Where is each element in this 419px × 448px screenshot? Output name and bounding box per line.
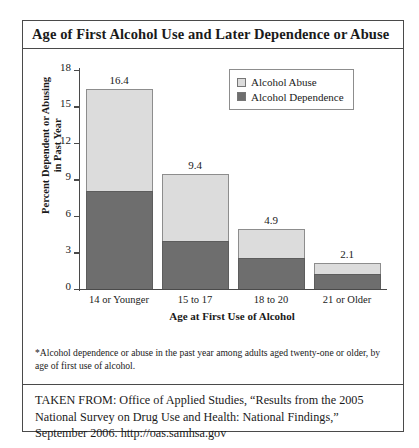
bar-total-label: 16.4 (86, 74, 153, 86)
y-axis-tick-label: 12 (60, 135, 71, 146)
bar-total-label: 9.4 (162, 159, 229, 171)
y-axis-tick: 0 (79, 289, 84, 290)
bar-segment-alcohol-abuse[interactable] (238, 229, 305, 258)
figure-footnote: *Alcohol dependence or abuse in the past… (35, 347, 391, 373)
x-axis-category-label: 21 or Older (300, 294, 395, 305)
x-axis-title: Age at First Use of Alcohol (79, 310, 385, 322)
bar-group[interactable]: 16.414 or Younger (86, 89, 153, 289)
legend-item-alcohol-abuse: Alcohol Abuse (237, 75, 344, 90)
legend-label-alcohol-dependence: Alcohol Dependence (251, 90, 344, 105)
bar-total-label: 4.9 (238, 214, 305, 226)
bar-segment-alcohol-dependence[interactable] (86, 191, 153, 288)
y-axis-tick-label: 0 (66, 281, 72, 292)
figure-title: Age of First Alcohol Use and Later Depen… (23, 21, 403, 48)
y-axis-tick-label: 9 (66, 171, 72, 182)
y-axis-tick-label: 3 (66, 244, 72, 255)
bar-segment-alcohol-abuse[interactable] (86, 89, 153, 191)
source-line-1: TAKEN FROM: Office of Applied Studies, “… (35, 392, 391, 409)
source-line-3: September 2006. http://oas.samhsa.gov (35, 425, 391, 442)
y-axis-tick-mark (74, 143, 79, 144)
y-axis-tick-mark (74, 179, 79, 180)
y-axis-tick-mark (74, 216, 79, 217)
bar-segment-alcohol-dependence[interactable] (238, 258, 305, 288)
figure-source: TAKEN FROM: Office of Applied Studies, “… (35, 392, 391, 442)
bar-group[interactable]: 2.121 or Older (314, 263, 381, 289)
legend-swatch-icon-alcohol-abuse (237, 78, 246, 87)
bar-segment-alcohol-abuse[interactable] (162, 174, 229, 241)
y-axis-tick-mark (74, 252, 79, 253)
bar-segment-alcohol-dependence[interactable] (314, 274, 381, 289)
legend-swatch-icon-alcohol-dependence (237, 92, 246, 101)
chart-area: Percent Dependent or Abusing in Past Yea… (23, 49, 403, 333)
bar-group[interactable]: 4.918 to 20 (238, 229, 305, 289)
legend-label-alcohol-abuse: Alcohol Abuse (251, 75, 317, 90)
bar-group[interactable]: 9.415 to 17 (162, 174, 229, 288)
bar-total-label: 2.1 (314, 248, 381, 260)
bar-segment-alcohol-abuse[interactable] (314, 263, 381, 274)
y-axis-title-line-1: Percent Dependent or Abusing (40, 61, 52, 231)
bar-segment-alcohol-dependence[interactable] (162, 241, 229, 288)
y-axis-tick-mark (74, 106, 79, 107)
figure-frame: Age of First Alcohol Use and Later Depen… (22, 20, 404, 432)
y-axis-tick-label: 6 (66, 208, 72, 219)
y-axis-tick-label: 18 (60, 62, 71, 73)
chart-legend: Alcohol Abuse Alcohol Dependence (229, 69, 354, 110)
source-divider (23, 384, 403, 385)
legend-item-alcohol-dependence: Alcohol Dependence (237, 90, 344, 105)
source-line-2: National Survey on Drug Use and Health: … (35, 409, 391, 426)
y-axis-tick-label: 15 (60, 98, 71, 109)
y-axis-tick-mark (74, 70, 79, 71)
y-axis-tick-mark (74, 289, 79, 290)
x-axis-line (79, 289, 387, 290)
